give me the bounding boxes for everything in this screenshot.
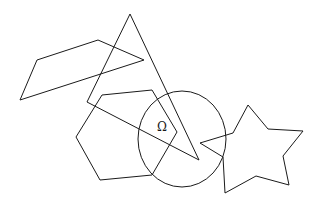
hexagon-shape: [76, 90, 177, 180]
geometric-diagram: Ω: [0, 0, 318, 205]
triangle-shape: [87, 14, 199, 160]
star-shape: [200, 105, 303, 193]
quadrilateral-shape: [20, 40, 144, 100]
omega-label: Ω: [157, 120, 167, 134]
